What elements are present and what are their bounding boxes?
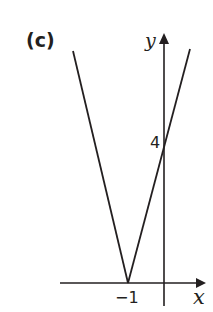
y-intercept-label: 4: [150, 133, 160, 152]
graph-left-branch: [73, 51, 128, 283]
graph-figure: (c) y 4 −1 x: [0, 0, 213, 312]
x-vertex-label: −1: [115, 288, 139, 307]
graph-right-branch: [128, 49, 190, 283]
y-axis-label: y: [144, 29, 156, 51]
part-label: (c): [26, 29, 55, 51]
x-axis-label: x: [193, 285, 205, 309]
y-axis-arrow-icon: [159, 33, 169, 44]
